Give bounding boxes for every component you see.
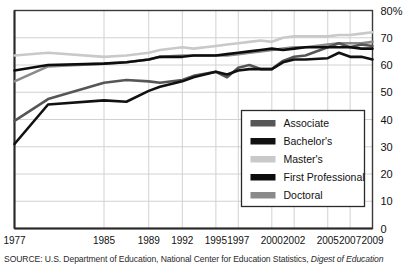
x-tick-label: 1985 (93, 235, 116, 246)
x-tick-label: 2007 (339, 235, 362, 246)
x-tick-label: 1992 (171, 235, 194, 246)
y-tick-label: 40 (381, 114, 393, 126)
legend-swatch (251, 192, 276, 199)
legend-swatch (251, 174, 276, 181)
chart-figure: 01020304050607080%1977198519891992199519… (0, 0, 412, 268)
legend-label: Bachelor's (284, 135, 333, 147)
legend-swatch (251, 138, 276, 145)
chart-legend: AssociateBachelor'sMaster'sFirst Profess… (242, 111, 365, 207)
y-tick-label: 20 (381, 168, 393, 180)
legend-label: Doctoral (284, 189, 323, 201)
legend-swatch (251, 156, 276, 163)
x-tick-label: 1997 (227, 235, 250, 246)
line-chart: 01020304050607080%1977198519891992199519… (0, 0, 412, 268)
x-tick-label: 1989 (138, 235, 161, 246)
source-prefix: SOURCE: U.S. Department of Education, Na… (4, 254, 311, 264)
legend-label: Master's (284, 153, 323, 165)
source-note: SOURCE: U.S. Department of Education, Na… (4, 254, 410, 264)
x-tick-label: 2009 (361, 235, 384, 246)
y-tick-label: 50 (381, 86, 393, 98)
y-tick-label: 70 (381, 32, 393, 44)
x-tick-label: 1995 (205, 235, 228, 246)
y-tick-label: 80% (381, 5, 403, 17)
legend-label: Associate (284, 117, 330, 129)
y-tick-label: 10 (381, 195, 393, 207)
x-tick-label: 2002 (283, 235, 306, 246)
x-tick-label: 2000 (261, 235, 284, 246)
legend-swatch (251, 120, 276, 127)
x-tick-label: 2005 (317, 235, 340, 246)
x-tick-label: 1977 (3, 235, 26, 246)
y-tick-label: 60 (381, 59, 393, 71)
source-italic-title: Digest of Education (311, 254, 384, 264)
y-tick-label: 30 (381, 141, 393, 153)
legend-label: First Professional (284, 171, 365, 183)
y-tick-label: 0 (381, 223, 387, 235)
